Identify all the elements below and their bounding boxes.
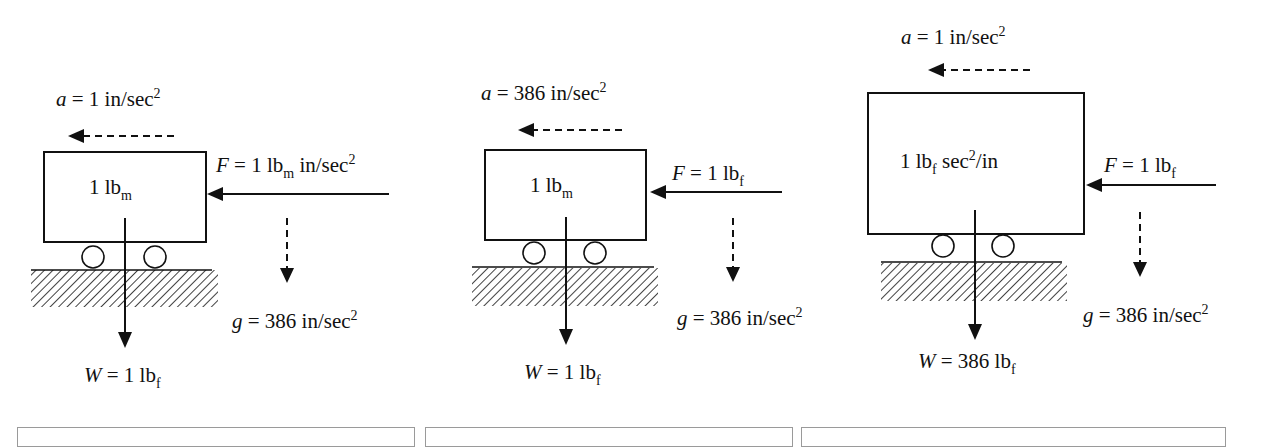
mass-label: 1 lbm — [89, 175, 132, 203]
caption-box-1 — [17, 427, 415, 447]
panel-3: a = 1 in/sec2 1 lbf sec2/in F = 1 lbf g … — [868, 24, 1216, 377]
acceleration-arrow-icon — [68, 129, 174, 143]
caption-box-2 — [425, 427, 793, 447]
mass-label: 1 lbm — [530, 173, 573, 201]
weight-label: W = 386 lbf — [918, 349, 1016, 377]
wheel-icon — [523, 242, 545, 264]
wheel-icon — [932, 235, 954, 257]
acceleration-arrow-icon — [928, 63, 1030, 77]
force-label: F = 1 lbf — [1103, 153, 1176, 181]
force-arrow-icon — [650, 185, 782, 199]
gravity-arrow-icon — [726, 218, 740, 282]
caption-box-3 — [801, 427, 1226, 447]
force-label: F = 1 lbf — [671, 161, 744, 189]
acceleration-label: a = 1 in/sec2 — [901, 24, 1006, 49]
gravity-label: g = 386 in/sec2 — [232, 308, 358, 333]
wheel-icon — [992, 235, 1014, 257]
panel-2: a = 386 in/sec2 1 lbm F = 1 lbf g = 386 … — [472, 80, 803, 388]
mass-label: 1 lbf sec2/in — [900, 148, 999, 177]
acceleration-label: a = 1 in/sec2 — [56, 86, 161, 111]
weight-label: W = 1 lbf — [524, 360, 601, 388]
force-label: F = 1 lbm in/sec2 — [215, 152, 355, 181]
acceleration-label: a = 386 in/sec2 — [481, 80, 607, 105]
gravity-label: g = 386 in/sec2 — [1083, 302, 1209, 327]
weight-label: W = 1 lbf — [84, 363, 161, 391]
force-arrow-icon — [1086, 178, 1216, 192]
acceleration-arrow-icon — [518, 123, 622, 137]
gravity-arrow-icon — [280, 218, 294, 283]
wheel-icon — [584, 242, 606, 264]
wheel-icon — [82, 246, 104, 268]
panel-1: a = 1 in/sec2 1 lbm F = 1 lbm in/sec2 g … — [31, 86, 389, 391]
wheel-icon — [144, 246, 166, 268]
gravity-arrow-icon — [1133, 212, 1147, 277]
force-arrow-icon — [207, 187, 389, 201]
gravity-label: g = 386 in/sec2 — [677, 305, 803, 330]
